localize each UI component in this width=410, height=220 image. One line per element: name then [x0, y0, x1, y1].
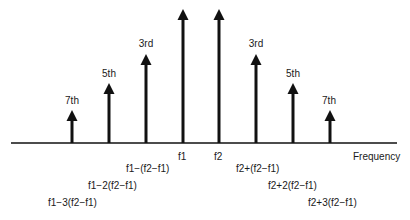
arrow-f2	[214, 9, 225, 143]
freq-label-f2: f2	[214, 151, 222, 163]
spectrum-graphic	[0, 0, 410, 220]
freq-label-f1: f1	[178, 151, 186, 163]
arrow-f2+1d	[251, 54, 262, 143]
arrow-f1-1d	[141, 54, 152, 143]
freq-label-f2-plus-3: f2+3(f2−f1)	[308, 197, 357, 209]
freq-label-f1-minus-2: f1−2(f2−f1)	[88, 180, 137, 192]
axis-label-frequency: Frequency	[353, 151, 400, 163]
freq-label-f1-minus-3: f1−3(f2−f1)	[48, 197, 97, 209]
freq-label-f2-plus-1: f2+(f2−f1)	[236, 163, 279, 175]
order-label-7th-left: 7th	[65, 95, 79, 107]
order-label-3rd-right: 3rd	[249, 38, 263, 50]
arrow-f1-2d	[104, 83, 115, 143]
order-label-5th-left: 5th	[102, 68, 116, 80]
order-label-5th-right: 5th	[286, 68, 300, 80]
arrow-f2+3d	[325, 110, 336, 143]
freq-label-f2-plus-2: f2+2(f2−f1)	[268, 180, 317, 192]
arrow-f1-3d	[67, 110, 78, 143]
freq-label-f1-minus-1: f1−(f2−f1)	[126, 163, 169, 175]
order-label-3rd-left: 3rd	[139, 38, 153, 50]
arrow-f1	[178, 9, 189, 143]
frequency-spectrum-diagram: 7th 5th 3rd 3rd 5th 7th f1 f2 Frequency …	[0, 0, 410, 220]
order-label-7th-right: 7th	[322, 95, 336, 107]
arrow-f2+2d	[288, 83, 299, 143]
